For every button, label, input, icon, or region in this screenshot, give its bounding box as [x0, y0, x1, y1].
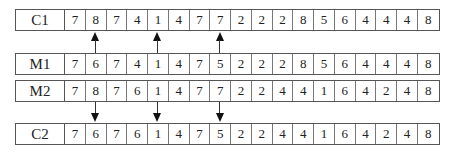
chromosome-row-m1: M1767414752228564448	[15, 53, 440, 75]
gene-cell: 7	[190, 10, 211, 30]
gene-cell: 7	[210, 81, 231, 101]
gene-cell: 4	[127, 54, 148, 74]
gene-cell: 4	[169, 124, 190, 144]
gene-cell: 4	[273, 124, 294, 144]
gene-cell: 7	[190, 54, 211, 74]
gene-cell: 7	[65, 124, 86, 144]
gene-cell: 7	[107, 81, 128, 101]
gene-cell: 4	[376, 54, 397, 74]
gene-cell: 6	[86, 54, 107, 74]
gene-cell: 1	[148, 81, 169, 101]
gene-cell: 5	[314, 10, 335, 30]
gene-cell: 6	[335, 124, 356, 144]
gene-cell: 7	[210, 10, 231, 30]
gene-cell: 2	[252, 124, 273, 144]
gene-cell: 8	[293, 10, 314, 30]
gene-cell: 5	[210, 124, 231, 144]
gene-cell: 6	[127, 124, 148, 144]
gene-cell: 1	[148, 54, 169, 74]
row-label: M1	[16, 54, 65, 74]
gene-cell: 4	[356, 10, 377, 30]
gene-cell: 8	[418, 10, 439, 30]
gene-cell: 1	[148, 124, 169, 144]
gene-cell: 2	[273, 10, 294, 30]
gene-cell: 7	[65, 54, 86, 74]
gene-cell: 2	[231, 81, 252, 101]
gene-cell: 8	[418, 124, 439, 144]
gene-cell: 4	[397, 10, 418, 30]
gene-cell: 8	[86, 81, 107, 101]
gene-cell: 6	[127, 81, 148, 101]
gene-cell: 4	[397, 54, 418, 74]
gene-cell: 8	[86, 10, 107, 30]
gene-cell: 4	[273, 81, 294, 101]
gene-cell: 7	[190, 124, 211, 144]
gene-cell: 6	[86, 124, 107, 144]
gene-cell: 1	[148, 10, 169, 30]
gene-cell: 4	[169, 10, 190, 30]
gene-cell: 2	[376, 124, 397, 144]
gene-cell: 4	[356, 81, 377, 101]
gene-cell: 5	[210, 54, 231, 74]
gene-cell: 7	[107, 124, 128, 144]
gene-cell: 7	[65, 81, 86, 101]
gene-cell: 6	[335, 81, 356, 101]
gene-cell: 2	[231, 124, 252, 144]
gene-cell: 4	[169, 54, 190, 74]
gene-cell: 7	[190, 81, 211, 101]
gene-cell: 6	[335, 54, 356, 74]
gene-cell: 8	[418, 54, 439, 74]
gene-cell: 4	[397, 124, 418, 144]
gene-cell: 8	[293, 54, 314, 74]
gene-cell: 4	[169, 81, 190, 101]
gene-cell: 2	[252, 54, 273, 74]
gene-cell: 2	[252, 10, 273, 30]
chromosome-row-c2: C2767614752244164248	[15, 123, 440, 145]
gene-cell: 4	[397, 81, 418, 101]
gene-cell: 5	[314, 54, 335, 74]
gene-cell: 2	[231, 10, 252, 30]
gene-cell: 4	[356, 54, 377, 74]
row-label: C1	[16, 10, 65, 30]
gene-cell: 2	[231, 54, 252, 74]
gene-cell: 7	[107, 54, 128, 74]
gene-cell: 4	[293, 81, 314, 101]
gene-cell: 7	[65, 10, 86, 30]
chromosome-row-m2: M2787614772244164248	[15, 80, 440, 102]
gene-cell: 1	[314, 124, 335, 144]
gene-cell: 2	[273, 54, 294, 74]
gene-cell: 7	[107, 10, 128, 30]
gene-cell: 8	[418, 81, 439, 101]
gene-cell: 2	[376, 81, 397, 101]
row-label: C2	[16, 124, 65, 144]
gene-cell: 4	[356, 124, 377, 144]
gene-cell: 6	[335, 10, 356, 30]
gene-cell: 2	[252, 81, 273, 101]
row-label: M2	[16, 81, 65, 101]
gene-cell: 1	[314, 81, 335, 101]
chromosome-row-c1: C1787414772228564448	[15, 9, 440, 31]
gene-cell: 4	[127, 10, 148, 30]
gene-cell: 4	[376, 10, 397, 30]
gene-cell: 4	[293, 124, 314, 144]
